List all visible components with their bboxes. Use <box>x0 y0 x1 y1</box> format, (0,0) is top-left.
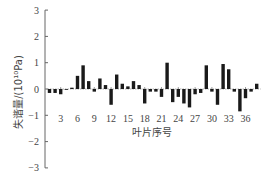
bar <box>233 89 236 92</box>
x-axis: 369121518212427303336 <box>45 87 261 124</box>
y-tick-label: 1 <box>34 57 39 68</box>
y-tick-label: −1 <box>28 110 39 121</box>
bar <box>188 89 191 107</box>
bar <box>81 65 84 89</box>
x-tick-label: 3 <box>58 113 63 124</box>
x-tick-label: 12 <box>106 113 116 124</box>
bar <box>70 88 73 89</box>
x-tick-label: 36 <box>241 113 251 124</box>
bar <box>76 76 79 89</box>
bar <box>137 85 140 89</box>
x-tick-label: 33 <box>224 113 234 124</box>
bar <box>149 89 152 92</box>
bar <box>255 84 258 89</box>
bar <box>205 65 208 89</box>
x-tick-label: 6 <box>75 113 80 124</box>
bar <box>115 75 118 89</box>
y-tick-label: −2 <box>28 136 39 147</box>
bar <box>126 86 129 89</box>
x-tick-label: 24 <box>173 113 183 124</box>
bar <box>48 89 51 93</box>
bar <box>165 63 168 89</box>
bar <box>238 89 241 111</box>
y-tick-label: 0 <box>34 84 39 95</box>
bar <box>177 89 180 97</box>
bar <box>65 89 68 90</box>
bar <box>87 81 90 89</box>
bar <box>132 81 135 89</box>
bar <box>59 89 62 94</box>
bar <box>216 89 219 105</box>
x-tick-label: 15 <box>123 113 133 124</box>
bars <box>48 63 259 112</box>
mistuning-bar-chart: −3−2−10123 369121518212427303336 失谐量/(10… <box>0 0 270 188</box>
bar <box>244 89 247 98</box>
x-tick-label: 21 <box>157 113 167 124</box>
bar <box>199 89 202 93</box>
bar <box>160 89 163 97</box>
bar <box>221 64 224 89</box>
y-tick-label: 2 <box>34 31 39 42</box>
y-tick-label: 3 <box>34 5 39 16</box>
x-tick-label: 9 <box>92 113 97 124</box>
x-tick-label: 18 <box>140 113 150 124</box>
bar <box>182 89 185 103</box>
bar <box>104 85 107 89</box>
x-tick-label: 27 <box>190 113 200 124</box>
y-tick-label: −3 <box>28 162 39 173</box>
bar <box>210 89 213 92</box>
x-axis-title: 叶片序号 <box>132 126 172 138</box>
bar <box>227 69 230 89</box>
bar <box>249 89 252 92</box>
x-tick-label: 30 <box>207 113 217 124</box>
bar <box>143 89 146 103</box>
bar <box>154 89 157 92</box>
bar <box>53 89 56 93</box>
bar <box>109 89 112 105</box>
bar <box>98 78 101 89</box>
bar <box>171 89 174 102</box>
bar <box>121 84 124 89</box>
bar <box>193 89 196 94</box>
bar <box>93 89 96 92</box>
y-axis-title: 失谐量/(10¹⁰Pa) <box>12 55 24 129</box>
